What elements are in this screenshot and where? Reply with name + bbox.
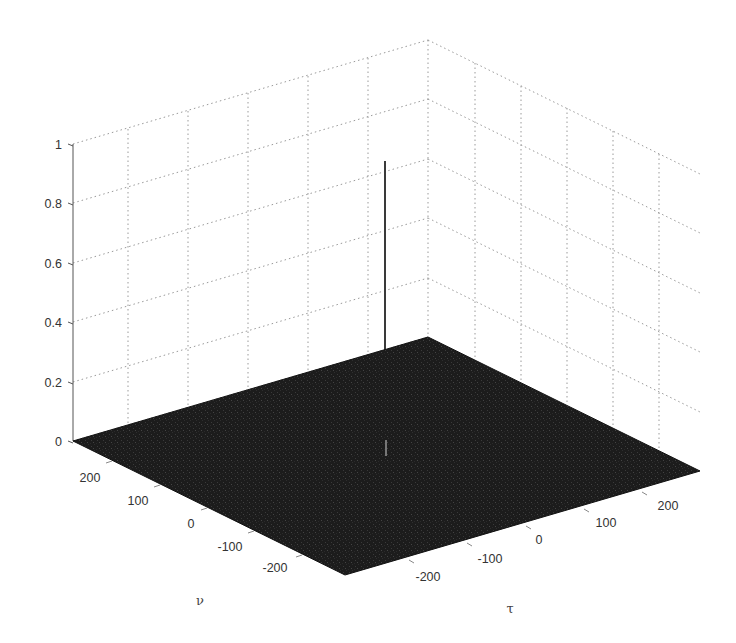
svg-text:0: 0 — [55, 435, 62, 449]
svg-text:100: 100 — [596, 516, 617, 530]
svg-text:200: 200 — [80, 471, 101, 485]
svg-text:200: 200 — [658, 499, 679, 513]
svg-text:1: 1 — [55, 138, 62, 152]
svg-text:100: 100 — [128, 494, 149, 508]
svg-text:-100: -100 — [477, 552, 502, 566]
svg-text:-100: -100 — [217, 540, 242, 554]
svg-text:0: 0 — [536, 533, 543, 547]
svg-text:-200: -200 — [262, 561, 287, 575]
svg-text:0: 0 — [188, 517, 195, 531]
z-axis — [68, 144, 73, 443]
svg-text:-200: -200 — [415, 570, 440, 584]
tau-axis-label: τ — [506, 601, 513, 616]
z-tick-labels: 0 0.2 0.4 0.6 0.8 1 — [45, 138, 62, 449]
svg-text:0.6: 0.6 — [45, 257, 62, 271]
svg-text:0.8: 0.8 — [45, 197, 62, 211]
svg-text:0.4: 0.4 — [45, 316, 62, 330]
nu-axis-label: ν — [196, 593, 204, 608]
surface-plot: 0 0.2 0.4 0.6 0.8 1 200 100 0 -100 -200 … — [0, 0, 736, 643]
svg-text:0.2: 0.2 — [45, 376, 62, 390]
